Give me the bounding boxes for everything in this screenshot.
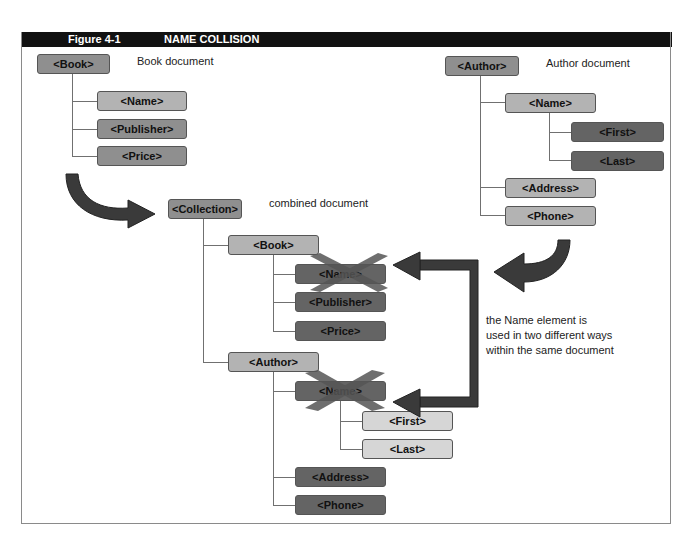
curved-arrow-book-icon (66, 174, 155, 228)
arrows-overlay (0, 0, 698, 552)
cross-out-icon (310, 253, 388, 292)
cross-out-icon (305, 370, 385, 411)
curved-arrow-author-icon (494, 240, 570, 292)
bracket-arrow-icon (393, 252, 478, 417)
